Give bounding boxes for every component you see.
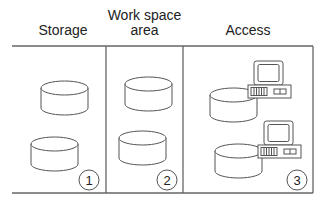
access-disk-2: [215, 144, 262, 178]
number-label-3: 3: [293, 173, 300, 188]
access-computer-2: [258, 121, 301, 158]
diagram-canvas: 1 2 3: [0, 0, 323, 203]
workspace-disk-2: [119, 131, 166, 165]
number-label-2: 2: [163, 173, 170, 188]
workspace-disk-1: [125, 77, 172, 111]
storage-disk-2: [31, 137, 78, 171]
access-computer-1: [248, 61, 291, 98]
number-label-1: 1: [85, 173, 92, 188]
storage-disk-1: [41, 81, 88, 115]
